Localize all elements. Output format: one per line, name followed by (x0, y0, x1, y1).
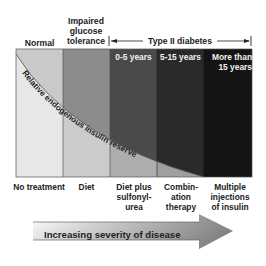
treatment-line: Multiple (202, 182, 258, 192)
treatment-line: Diet plus (108, 182, 160, 192)
label-more-than: More than (204, 52, 252, 62)
treatment-line: injections (202, 192, 258, 202)
treatment-diet: Diet (63, 182, 110, 192)
label-more-than-15-years: More than 15 years (204, 52, 252, 72)
header-type2-diabetes: Type II diabetes (144, 36, 216, 46)
igt-line-3: tolerance (58, 36, 114, 46)
type2-arrowhead-right (244, 39, 250, 43)
treatment-line: therapy (155, 202, 207, 212)
treatment-combination-therapy: Combin- ation therapy (155, 182, 207, 212)
treatment-line: ation (155, 192, 207, 202)
label-15-years: 15 years (204, 62, 252, 72)
igt-line-2: glucose (58, 26, 114, 36)
treatment-line: of insulin (202, 202, 258, 212)
treatment-line: sulfonyl- (108, 192, 160, 202)
stage-column-5-15-years (157, 49, 204, 177)
treatment-diet-plus-sulfonylurea: Diet plus sulfonyl- urea (108, 182, 160, 212)
igt-line-1: Impaired (58, 16, 114, 26)
severity-arrow-label: Increasing severity of disease (44, 229, 181, 240)
label-5-15-years: 5-15 years (157, 52, 204, 62)
treatment-multiple-injections-of-insulin: Multiple injections of insulin (202, 182, 258, 212)
header-impaired-glucose-tolerance: Impaired glucose tolerance (58, 16, 114, 46)
header-normal: Normal (16, 38, 63, 48)
treatment-line: urea (108, 202, 160, 212)
treatment-line: Combin- (155, 182, 207, 192)
label-0-5-years: 0-5 years (110, 52, 157, 62)
